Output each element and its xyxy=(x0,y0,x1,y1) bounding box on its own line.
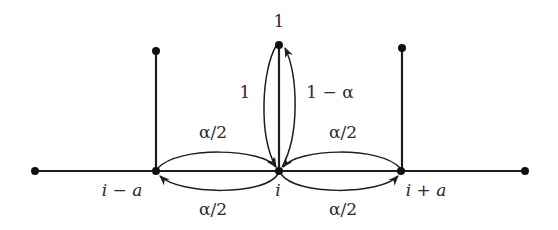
node-top-i-minus-a xyxy=(152,47,160,55)
arc-i-plus-a-to-i xyxy=(283,152,400,168)
label-up-go: 1 − α xyxy=(306,82,354,102)
arc-i-minus-a-to-i xyxy=(158,152,276,168)
node-left-end xyxy=(31,167,39,175)
node-right-end xyxy=(521,167,529,175)
node-i-plus-a xyxy=(397,167,405,175)
node-top-i xyxy=(275,41,283,49)
label-right-to-i: α/2 xyxy=(329,122,357,142)
arc-top-to-i xyxy=(264,46,276,167)
arc-i-to-i-plus-a xyxy=(281,174,398,190)
label-left-to-i: α/2 xyxy=(199,122,227,142)
transition-diagram: 1 1 1 − α α/2 α/2 α/2 α/2 i − a i i + a xyxy=(0,0,558,230)
label-node-i: i xyxy=(275,180,280,200)
arc-i-to-top xyxy=(282,48,295,167)
label-i-to-right: α/2 xyxy=(329,199,357,219)
label-i-to-left: α/2 xyxy=(199,199,227,219)
label-top-node: 1 xyxy=(274,11,285,31)
label-node-i-plus-a: i + a xyxy=(406,180,447,200)
node-top-i-plus-a xyxy=(398,44,406,52)
label-up-return: 1 xyxy=(240,82,251,102)
node-i xyxy=(275,167,283,175)
arc-i-to-i-minus-a xyxy=(160,174,278,190)
label-node-i-minus-a: i − a xyxy=(102,180,143,200)
node-i-minus-a xyxy=(152,167,160,175)
